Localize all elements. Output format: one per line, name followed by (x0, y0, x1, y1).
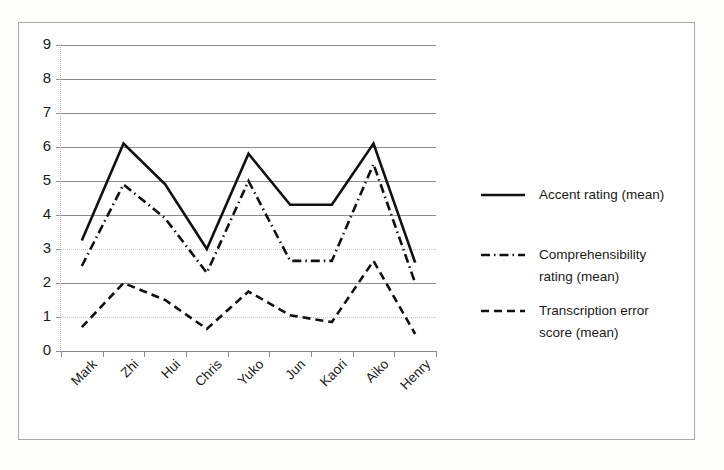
series-line-2 (82, 261, 415, 334)
figure-frame: 0123456789 MarkZhiHuiChrisYukoJunKaoriAi… (18, 22, 695, 440)
x-tick-label: Kaori (317, 357, 350, 390)
x-tick-label: Hui (158, 357, 183, 382)
y-tick-label: 9 (43, 35, 51, 52)
series-line-0 (82, 144, 415, 263)
y-tick-label: 5 (43, 171, 51, 188)
y-tick-label: 6 (43, 137, 51, 154)
x-tick-label: Jun (282, 357, 308, 383)
line-chart: 0123456789 MarkZhiHuiChrisYukoJunKaoriAi… (19, 23, 696, 441)
y-tick-label: 1 (43, 307, 51, 324)
y-axis-tick-labels: 0123456789 (43, 35, 51, 358)
y-tick-label: 2 (43, 273, 51, 290)
y-tick-label: 8 (43, 69, 51, 86)
legend-label-1: Comprehensibility (539, 247, 647, 262)
y-tick-label: 3 (43, 239, 51, 256)
data-series-group (82, 144, 415, 334)
x-tick-label: Zhi (118, 357, 142, 381)
legend-label-2: Transcription error (539, 303, 649, 318)
y-tick-label: 7 (43, 103, 51, 120)
y-tick-label: 4 (43, 205, 51, 222)
legend-label-0: Accent rating (mean) (539, 187, 664, 202)
x-tick-label: Henry (397, 356, 433, 392)
chart-container: 0123456789 MarkZhiHuiChrisYukoJunKaoriAi… (19, 23, 694, 439)
x-tick-label: Chris (192, 356, 225, 389)
x-tick-label: Yuko (235, 357, 267, 389)
chart-legend: Accent rating (mean)Comprehensibilityrat… (481, 187, 664, 340)
y-tick-label: 0 (43, 341, 51, 358)
page-background: 0123456789 MarkZhiHuiChrisYukoJunKaoriAi… (0, 0, 724, 470)
legend-label-1-line2: rating (mean) (539, 269, 619, 284)
x-tick-label: Aiko (362, 357, 391, 386)
y-gridlines (56, 46, 436, 352)
x-tick-label: Mark (68, 356, 100, 388)
x-axis-tick-labels: MarkZhiHuiChrisYukoJunKaoriAikoHenry (68, 356, 433, 392)
legend-label-2-line2: score (mean) (539, 325, 619, 340)
